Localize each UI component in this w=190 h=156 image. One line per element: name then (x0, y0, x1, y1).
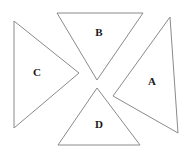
figure-canvas: A B C D (0, 0, 190, 156)
triangles-diagram: A B C D (0, 0, 190, 156)
triangle-c-shape (14, 21, 79, 128)
triangle-b-label: B (95, 26, 103, 38)
triangle-a-label: A (148, 75, 156, 87)
triangle-d-label: D (95, 118, 103, 130)
triangle-c-label: C (33, 66, 41, 78)
